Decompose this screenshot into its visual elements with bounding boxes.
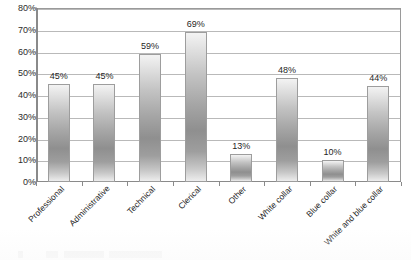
bar[interactable] (93, 84, 115, 182)
bar-chart: 80%70%60%50%40%30%20%10%0% 45%45%59%69%1… (0, 0, 411, 260)
y-axis-tick-label: 70% (2, 25, 36, 35)
bar[interactable] (276, 78, 298, 182)
x-axis-category-label: Technical (125, 184, 157, 216)
bar-slot: 45% (82, 8, 128, 182)
y-axis-tick-label: 80% (2, 3, 36, 13)
x-axis-category-label: Administrative (67, 184, 112, 229)
y-axis-tick-label: 50% (2, 68, 36, 78)
bar-value-label: 45% (95, 71, 113, 81)
bar-value-label: 13% (232, 141, 250, 151)
y-axis-tick-label: 0% (2, 177, 36, 187)
bar[interactable] (322, 160, 344, 182)
bar-slot: 10% (310, 8, 356, 182)
x-axis-category-label: Clerical (176, 184, 203, 211)
x-axis-tick-mark (401, 182, 402, 186)
y-axis-tick-label: 20% (2, 134, 36, 144)
bar-slot: 59% (127, 8, 173, 182)
bar-series: 45%45%59%69%13%48%10%44% (36, 8, 401, 182)
bar-value-label: 45% (50, 71, 68, 81)
y-axis-tick-label: 60% (2, 47, 36, 57)
bar[interactable] (185, 32, 207, 182)
bar[interactable] (139, 54, 161, 182)
y-axis-tick-label: 10% (2, 155, 36, 165)
bar-value-label: 10% (324, 147, 342, 157)
bar-value-label: 69% (187, 19, 205, 29)
y-axis-tick-label: 30% (2, 112, 36, 122)
bar-slot: 48% (264, 8, 310, 182)
bar-slot: 69% (173, 8, 219, 182)
bar-slot: 13% (219, 8, 265, 182)
bar-value-label: 48% (278, 65, 296, 75)
y-axis-tick-label: 40% (2, 90, 36, 100)
x-axis-category-labels: ProfessionalAdministrativeTechnicalCleri… (36, 184, 401, 254)
x-axis-category-label: Blue collar (304, 184, 339, 219)
bar-value-label: 44% (369, 73, 387, 83)
bar-value-label: 59% (141, 41, 159, 51)
x-axis-category-label: White collar (256, 184, 294, 222)
scanned-footer-text (12, 251, 192, 258)
bar[interactable] (367, 86, 389, 182)
bar-slot: 44% (355, 8, 401, 182)
x-axis-category-label: Other (226, 184, 248, 206)
bar[interactable] (230, 154, 252, 182)
bar[interactable] (48, 84, 70, 182)
bar-slot: 45% (36, 8, 82, 182)
